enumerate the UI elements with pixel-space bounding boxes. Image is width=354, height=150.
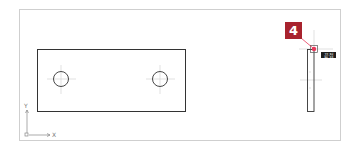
ucs-x-label: X — [52, 132, 56, 138]
ucs-icon — [25, 110, 50, 137]
callout-leader-line — [301, 38, 313, 48]
osnap-tooltip: 끝점 — [321, 52, 336, 58]
front-view-outline[interactable] — [38, 50, 186, 112]
step-callout-badge: 4 — [285, 22, 302, 39]
side-view-outline[interactable] — [308, 50, 315, 112]
drawing-canvas[interactable]: 4 끝점 Y X — [0, 0, 354, 150]
hole-2-centerlines — [146, 65, 175, 94]
hole-1-centerlines — [47, 65, 76, 94]
side-view-centerlines — [299, 30, 333, 89]
ucs-y-label: Y — [24, 103, 28, 109]
